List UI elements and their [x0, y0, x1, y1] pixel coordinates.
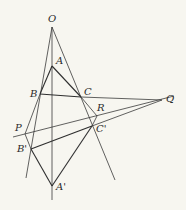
- label-P: P: [14, 122, 22, 133]
- line-AB-P: [25, 94, 40, 134]
- label-Aprime: A': [55, 181, 66, 192]
- line-BC-Q: [81, 97, 162, 100]
- label-A: A: [55, 55, 63, 66]
- side-AprimeCprime: [52, 126, 92, 186]
- label-O: O: [48, 13, 56, 24]
- line-O-C-Cprime: [52, 27, 115, 180]
- side-BC: [40, 94, 81, 97]
- label-C: C: [84, 86, 92, 97]
- desargues-diagram: O A B C Q R C' P B' A': [0, 0, 186, 210]
- side-AC: [52, 66, 81, 97]
- label-Cprime: C': [96, 123, 106, 134]
- label-B: B: [29, 88, 37, 99]
- line-AC-R: [81, 97, 97, 116]
- line-O-B-Bprime: [26, 27, 52, 178]
- side-BprimeCprime: [31, 126, 92, 149]
- side-AprimeBprime: [31, 149, 52, 186]
- side-AB: [40, 66, 52, 94]
- label-Bprime: B': [16, 143, 27, 154]
- label-R: R: [96, 102, 105, 113]
- label-Q: Q: [166, 93, 174, 104]
